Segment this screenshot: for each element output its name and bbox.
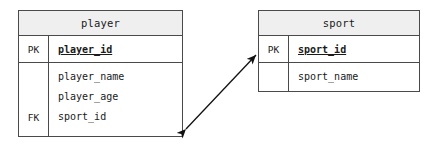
entity-sport[interactable]: sport PK sport_id sport_name: [258, 10, 420, 92]
entity-player[interactable]: player PK player_id FK player_name playe…: [18, 10, 183, 137]
entity-sport-title: sport: [259, 11, 419, 36]
entity-player-pk-attribute-text: player_id: [58, 44, 112, 55]
entity-player-attribute-player-name: player_name: [58, 71, 124, 82]
entity-player-attribute-sport-id: sport_id: [58, 111, 106, 122]
entity-sport-attribute-key-label: [259, 63, 289, 91]
entity-sport-pk-attribute-text: sport_id: [298, 44, 346, 55]
entity-player-attribute-player-age: player_age: [58, 91, 118, 102]
entity-sport-attribute-sport-name: sport_name: [289, 63, 419, 91]
entity-player-pk-attribute: player_id: [49, 36, 182, 62]
entity-player-key-column: FK: [19, 63, 49, 136]
entity-player-attribute-column: player_name player_age sport_id: [49, 63, 182, 136]
entity-player-fk-key-label: FK: [19, 112, 48, 123]
entity-sport-pk-attribute: sport_id: [289, 36, 419, 62]
entity-sport-pk-key-label: PK: [259, 36, 289, 62]
entity-player-title: player: [19, 11, 182, 36]
entity-player-pk-key-label: PK: [19, 36, 49, 62]
relationship-line: [186, 55, 256, 129]
entity-sport-attribute-row: sport_name: [259, 63, 419, 91]
entity-sport-attribute-sport-name-text: sport_name: [298, 71, 358, 82]
entity-sport-pk-row: PK sport_id: [259, 36, 419, 63]
entity-player-pk-row: PK player_id: [19, 36, 182, 63]
entity-player-attributes-block: FK player_name player_age sport_id: [19, 63, 182, 136]
er-diagram-canvas: player PK player_id FK player_name playe…: [0, 0, 438, 149]
